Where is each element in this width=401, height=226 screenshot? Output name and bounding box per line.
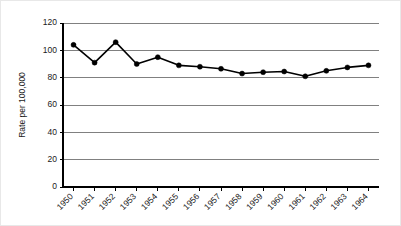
- data-point: [113, 40, 118, 45]
- x-axis-tick-label: 1953: [118, 191, 139, 212]
- x-axis-tick-label: 1956: [181, 191, 202, 212]
- x-axis-tick-label: 1962: [307, 191, 328, 212]
- data-point: [219, 66, 224, 71]
- y-axis-tick-label: 80: [48, 72, 58, 82]
- x-axis-tick-label: 1952: [97, 191, 118, 212]
- x-axis-tick-label: 1955: [160, 191, 181, 212]
- x-axis-tick-label: 1950: [54, 191, 75, 212]
- x-axis-tick-label: 1958: [223, 191, 244, 212]
- data-point: [92, 60, 97, 65]
- data-point: [345, 65, 350, 70]
- x-axis-tick-label: 1959: [244, 191, 265, 212]
- x-axis-tick-marks: [74, 187, 369, 191]
- data-point: [303, 74, 308, 79]
- line-chart: 020406080100120 195019511952195319541955…: [1, 1, 401, 226]
- data-point: [176, 63, 181, 68]
- x-axis-tick-label: 1957: [202, 191, 223, 212]
- y-axis-tick-label: 20: [48, 154, 58, 164]
- x-axis-tick-labels: 1950195119521953195419551956195719581959…: [54, 191, 370, 212]
- data-point: [134, 62, 139, 67]
- x-axis-tick-label: 1960: [265, 191, 286, 212]
- chart-figure: 020406080100120 195019511952195319541955…: [0, 0, 401, 226]
- y-axis-tick-label: 0: [52, 181, 57, 191]
- y-axis-tick-label: 100: [43, 45, 57, 55]
- x-axis-tick-label: 1954: [139, 191, 160, 212]
- data-point: [197, 64, 202, 69]
- y-axis-tick-labels: 020406080100120: [43, 17, 57, 191]
- x-axis-tick-label: 1951: [76, 191, 97, 212]
- x-axis-tick-label: 1964: [349, 191, 370, 212]
- y-axis-tick-label: 40: [48, 127, 58, 137]
- data-point: [71, 42, 76, 47]
- data-point: [155, 55, 160, 60]
- data-point: [261, 70, 266, 75]
- data-point: [240, 71, 245, 76]
- y-axis-title: Rate per 100,000: [17, 72, 27, 138]
- x-axis-tick-label: 1961: [286, 191, 307, 212]
- y-axis-tick-label: 60: [48, 99, 58, 109]
- data-point: [324, 68, 329, 73]
- y-axis-tick-label: 120: [43, 17, 57, 27]
- data-point: [366, 63, 371, 68]
- data-point: [282, 69, 287, 74]
- x-axis-tick-label: 1963: [328, 191, 349, 212]
